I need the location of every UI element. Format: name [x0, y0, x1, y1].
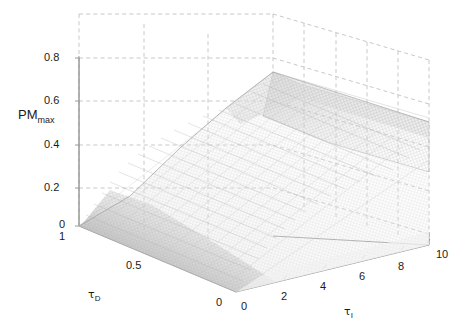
surface-plot-svg [0, 0, 469, 335]
y-tick-2: 2 [281, 291, 287, 302]
x-tick-0-5: 0.5 [126, 260, 141, 271]
x-tick-0: 0 [216, 297, 222, 308]
x-tick-1: 1 [59, 231, 65, 242]
z-tick-0-4: 0.4 [44, 139, 59, 150]
y-tick-6: 6 [359, 271, 365, 282]
z-tick-0-8: 0.8 [44, 52, 59, 63]
z-axis-title: PMmax [18, 108, 55, 125]
z-axis-title-sub: max [38, 115, 55, 125]
z-axis-spine [75, 56, 79, 226]
y-axis-title-main: τ [344, 305, 351, 318]
x-axis-title: τD [88, 288, 100, 303]
z-axis-title-main: PM [18, 107, 38, 122]
y-tick-4: 4 [320, 281, 326, 292]
z-tick-0: 0 [59, 219, 65, 230]
y-axis-title-sub: I [351, 311, 353, 320]
figure-canvas: 0.8 0.6 0.4 0.2 0 PMmax 1 0.5 0 τD 0 2 4… [0, 0, 469, 335]
x-axis-title-main: τ [88, 288, 95, 301]
y-tick-0: 0 [241, 301, 247, 312]
y-tick-10: 10 [436, 249, 448, 260]
y-tick-8: 8 [398, 261, 404, 272]
z-tick-0-6: 0.6 [44, 95, 59, 106]
x-axis-title-sub: D [95, 294, 101, 303]
z-tick-0-2: 0.2 [44, 182, 59, 193]
y-axis-title: τI [344, 305, 353, 320]
